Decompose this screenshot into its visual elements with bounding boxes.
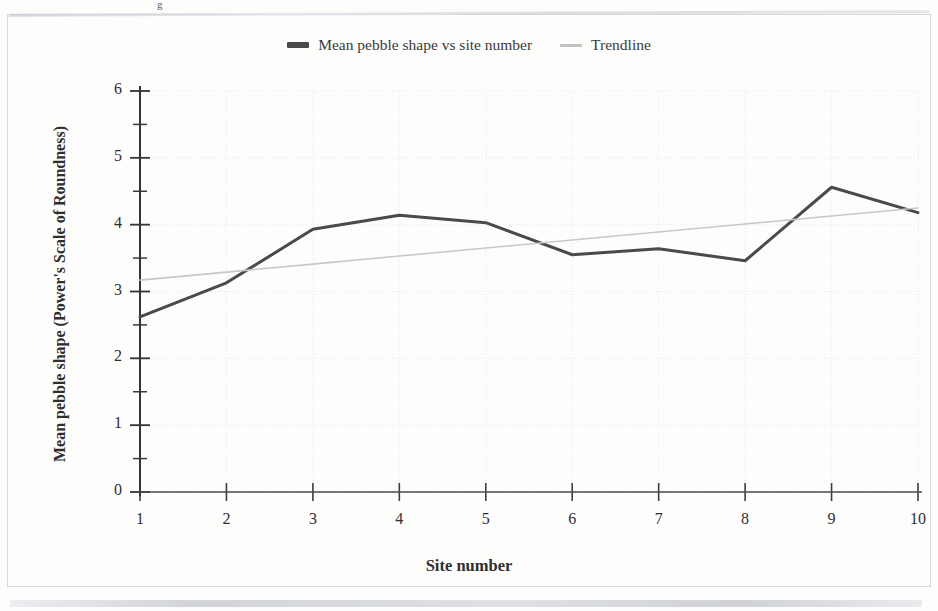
x-tick-label: 10 [903, 510, 933, 528]
x-tick-label: 7 [644, 510, 674, 528]
chart-series-paths [140, 187, 918, 317]
y-tick-label: 2 [96, 347, 122, 365]
x-tick-label: 2 [211, 510, 241, 528]
x-tick-label: 3 [298, 510, 328, 528]
y-tick-label: 6 [96, 80, 122, 98]
y-tick-label: 0 [96, 481, 122, 499]
y-tick-label: 4 [96, 214, 122, 232]
y-tick-label: 1 [96, 414, 122, 432]
chart-gridlines [140, 87, 920, 492]
x-tick-label: 8 [730, 510, 760, 528]
x-tick-label: 6 [557, 510, 587, 528]
series-line-2 [140, 208, 918, 280]
x-tick-label: 4 [384, 510, 414, 528]
x-tick-label: 9 [817, 510, 847, 528]
chart-axis-ticks [130, 91, 918, 501]
series-line-1 [140, 187, 918, 317]
y-tick-label: 3 [96, 281, 122, 299]
x-tick-label: 1 [125, 510, 155, 528]
x-tick-label: 5 [471, 510, 501, 528]
y-tick-label: 5 [96, 147, 122, 165]
